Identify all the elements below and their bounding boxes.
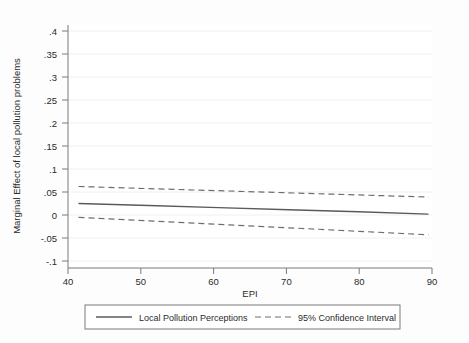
y-tick-label: .25 <box>44 95 57 106</box>
chart-legend: Local Pollution Perceptions 95% Confiden… <box>85 305 400 329</box>
x-tick-label: 60 <box>208 276 219 287</box>
y-axis-title: Marginal Effect of local pollution probl… <box>11 58 22 234</box>
y-tick-label: .15 <box>44 141 57 152</box>
x-tick-label: 80 <box>354 276 365 287</box>
x-tick-marks <box>68 268 432 274</box>
x-tick-label: 40 <box>63 276 74 287</box>
y-tick-label: .4 <box>49 26 57 37</box>
legend-label-dashed: 95% Confidence Interval <box>298 313 396 323</box>
y-tick-label: .05 <box>44 187 57 198</box>
y-tick-label: .3 <box>49 72 57 83</box>
y-tick-label: .2 <box>49 118 57 129</box>
x-axis-title: EPI <box>242 288 257 299</box>
y-tick-label: -.1 <box>46 256 57 267</box>
x-tick-labels: 40 50 60 70 80 90 <box>63 276 438 287</box>
x-tick-label: 50 <box>136 276 147 287</box>
chart-figure: .4 .35 .3 .25 .2 .15 .1 .05 0 -.05 -.1 4… <box>0 0 469 343</box>
legend-label-solid: Local Pollution Perceptions <box>139 313 248 323</box>
y-tick-label: .1 <box>49 164 57 175</box>
y-tick-labels: .4 .35 .3 .25 .2 .15 .1 .05 0 -.05 -.1 <box>41 26 57 267</box>
y-tick-label: 0 <box>52 210 57 221</box>
x-tick-label: 70 <box>281 276 292 287</box>
y-tick-marks <box>62 31 68 261</box>
marginal-effect-plot: .4 .35 .3 .25 .2 .15 .1 .05 0 -.05 -.1 4… <box>0 0 469 343</box>
y-tick-label: -.05 <box>41 233 57 244</box>
y-tick-label: .35 <box>44 49 57 60</box>
x-tick-label: 90 <box>427 276 438 287</box>
